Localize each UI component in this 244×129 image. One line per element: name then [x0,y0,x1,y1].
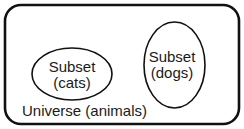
venn-diagram: Subset (cats) Subset (dogs) Universe (an… [0,0,244,129]
subset-cats-label-line1: Subset [49,58,97,75]
subset-dogs-label-line1: Subset [149,48,197,65]
universe-label: Universe (animals) [22,102,147,119]
subset-cats-label-line2: (cats) [53,74,91,91]
subset-dogs-label-line2: (dogs) [151,64,194,81]
